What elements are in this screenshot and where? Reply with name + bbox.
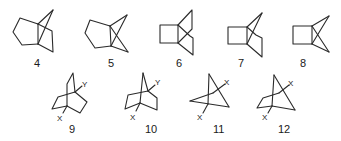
compound-number-12: 12: [278, 123, 290, 135]
compound-number-9: 9: [69, 123, 75, 135]
structure-4: 4: [13, 10, 53, 69]
substituent-y-9: Y: [82, 80, 88, 89]
compound-number-11: 11: [213, 123, 224, 135]
compound-number-5: 5: [108, 57, 114, 69]
substituent-x-bottom-11: X: [197, 113, 203, 122]
structure-8: 8: [293, 16, 329, 69]
substituent-x-bottom-12: X: [262, 113, 268, 122]
structure-7: 7: [228, 13, 262, 69]
structure-6: 6: [160, 10, 193, 69]
substituent-x-top-12: X: [288, 79, 294, 88]
structure-5: 5: [85, 15, 128, 69]
structure-10: Y X 10: [125, 73, 161, 135]
compound-number-6: 6: [176, 57, 182, 69]
substituent-y-10: Y: [155, 78, 161, 87]
substituent-x-9: X: [57, 114, 63, 123]
substituent-x-10: X: [130, 113, 136, 122]
substituent-x-top-11: X: [224, 78, 230, 87]
compound-number-10: 10: [145, 123, 157, 135]
structure-9: Y X 9: [52, 73, 88, 135]
compound-number-7: 7: [238, 57, 244, 69]
structure-11: X X 11: [190, 74, 230, 135]
compound-number-8: 8: [300, 57, 306, 69]
structure-12: X X 12: [257, 75, 295, 135]
compound-number-4: 4: [34, 57, 40, 69]
molecule-figure: 4 5 6 7 8 Y: [0, 0, 341, 141]
